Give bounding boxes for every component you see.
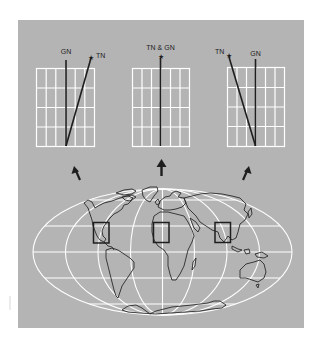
label-tn-east: TN — [215, 48, 224, 55]
map-graticule — [30, 189, 295, 315]
grid-north-diagram: GN ★ TN ★ TN & GN — [0, 0, 321, 345]
label-gn-west: GN — [61, 48, 72, 55]
star-icon: ★ — [158, 53, 164, 60]
label-tn-west: TN — [96, 52, 105, 59]
star-icon: ★ — [226, 52, 232, 59]
label-tn-gn: TN & GN — [146, 44, 174, 51]
star-icon: ★ — [88, 54, 94, 61]
label-gn-east: GN — [250, 50, 261, 57]
